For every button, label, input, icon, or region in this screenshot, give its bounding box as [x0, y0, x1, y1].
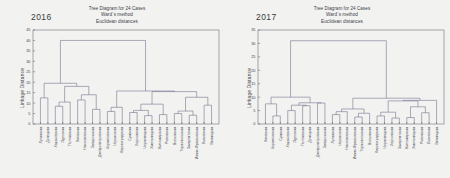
svg-text:30: 30 — [26, 59, 31, 64]
svg-text:Винницкая: Винницкая — [435, 127, 439, 145]
svg-text:45: 45 — [26, 27, 30, 32]
leaf-label: Житомирская — [158, 127, 162, 149]
svg-text:Харьковская: Харьковская — [54, 127, 58, 148]
panel-2016: 2016 Tree Diagram for 24 Cases Ward`s me… — [0, 0, 225, 178]
svg-text:Донецкая: Донецкая — [308, 127, 312, 143]
svg-text:Полтавская: Полтавская — [68, 127, 72, 146]
svg-text:0: 0 — [253, 121, 256, 126]
svg-text:Львовская: Львовская — [202, 127, 206, 144]
svg-text:25: 25 — [251, 54, 255, 59]
leaf-label: Донецкая — [308, 127, 312, 143]
svg-text:Черкасская: Черкасская — [113, 127, 117, 146]
svg-text:Днепропетровская: Днепропетровская — [98, 127, 102, 157]
svg-text:Волынская: Волынская — [173, 127, 177, 145]
svg-text:Черновицкая: Черновицкая — [383, 127, 387, 148]
svg-text:25: 25 — [26, 69, 30, 74]
leaf-label: Херсонская — [135, 127, 139, 146]
panel-2017: 2017 Tree Diagram for 24 Cases Ward`s me… — [225, 0, 450, 178]
leaf-label: Волынская — [368, 127, 372, 145]
svg-text:Полтавская: Полтавская — [301, 127, 305, 146]
svg-text:Запорожская: Запорожская — [323, 127, 327, 148]
svg-text:Киевская: Киевская — [264, 127, 268, 142]
svg-text:20: 20 — [251, 68, 256, 73]
svg-text:Донецкая: Донецкая — [46, 127, 50, 143]
svg-text:Запорожская: Запорожская — [91, 127, 95, 148]
svg-text:Житомирская: Житомирская — [405, 127, 409, 149]
dendrogram-svg-2016: 051015202530354045ЛуганскаяДонецкаяХарьк… — [0, 0, 225, 178]
svg-text:Черниговская: Черниговская — [106, 127, 110, 149]
svg-text:Харьковская: Харьковская — [286, 127, 290, 148]
leaf-label: Николаевская — [83, 127, 87, 150]
leaf-label: Одесская — [293, 127, 297, 143]
svg-text:Тернопольская: Тернопольская — [180, 127, 184, 152]
leaf-label: Ровенская — [165, 127, 169, 144]
leaf-label: Ровенская — [420, 127, 424, 144]
svg-text:Сумская: Сумская — [279, 127, 283, 141]
svg-text:Ровенская: Ровенская — [165, 127, 169, 144]
svg-text:Черниговская: Черниговская — [271, 127, 275, 149]
leaf-label: Днепропетровская — [98, 127, 102, 157]
svg-text:Сумская: Сумская — [128, 127, 132, 141]
svg-text:Хмельницкая: Хмельницкая — [412, 127, 416, 149]
leaf-label: Харьковская — [286, 127, 290, 148]
leaf-label: Хмельницкая — [150, 127, 154, 149]
svg-text:Житомирская: Житомирская — [158, 127, 162, 149]
leaf-label: Закарпатская — [187, 127, 191, 149]
svg-text:Кировоградская: Кировоградская — [120, 127, 124, 153]
leaf-label: Винницкая — [435, 127, 439, 145]
leaf-label: Запорожская — [323, 127, 327, 148]
leaf-label: Киевская — [264, 127, 268, 142]
svg-text:15: 15 — [26, 90, 30, 95]
svg-text:10: 10 — [251, 95, 256, 100]
svg-text:Николаевская: Николаевская — [83, 127, 87, 150]
svg-text:Волынская: Волынская — [368, 127, 372, 145]
leaf-label: Ивано-Франковская — [195, 127, 199, 159]
leaf-label: Полтавская — [301, 127, 305, 146]
svg-text:Черновицкая: Черновицкая — [143, 127, 147, 148]
svg-text:Херсонская: Херсонская — [135, 127, 139, 146]
svg-text:Винницкая: Винницкая — [210, 127, 214, 145]
svg-text:10: 10 — [26, 101, 31, 106]
svg-text:35: 35 — [251, 27, 255, 32]
leaf-label: Тернопольская — [360, 127, 364, 152]
svg-text:Закарпатская: Закарпатская — [187, 127, 191, 149]
leaf-label: Волынская — [173, 127, 177, 145]
svg-text:Ивано-Франковская: Ивано-Франковская — [353, 127, 357, 159]
leaf-label: Тернопольская — [180, 127, 184, 152]
svg-text:Одесская: Одесская — [61, 127, 65, 143]
leaf-label: Львовская — [202, 127, 206, 144]
svg-text:0: 0 — [28, 121, 31, 126]
leaf-label: Черниговская — [271, 127, 275, 149]
leaf-label: Донецкая — [46, 127, 50, 143]
svg-text:Николаевская: Николаевская — [345, 127, 349, 150]
leaf-label: Запорожская — [91, 127, 95, 148]
leaf-label: Полтавская — [68, 127, 72, 146]
leaf-label: Черниговская — [106, 127, 110, 149]
leaf-label: Днепропетровская — [316, 127, 320, 157]
leaf-label: Ивано-Франковская — [353, 127, 357, 159]
leaf-label: Сумская — [128, 127, 132, 141]
svg-text:Киевская: Киевская — [76, 127, 80, 142]
leaf-label: Закарпатская — [398, 127, 402, 149]
svg-text:Одесская: Одесская — [293, 127, 297, 143]
svg-text:Ивано-Франковская: Ивано-Франковская — [195, 127, 199, 159]
leaf-label: Кировоградская — [375, 127, 379, 153]
leaf-label: Черкасская — [113, 127, 117, 146]
svg-text:20: 20 — [26, 80, 31, 85]
svg-text:Хмельницкая: Хмельницкая — [150, 127, 154, 149]
svg-text:Херсонская: Херсонская — [390, 127, 394, 146]
svg-text:Луганская: Луганская — [39, 127, 43, 143]
leaf-label: Черновицкая — [383, 127, 387, 148]
dendrogram-svg-2017: 05101520253035КиевскаяЧерниговскаяСумска… — [225, 0, 450, 178]
svg-text:Черкасская: Черкасская — [338, 127, 342, 146]
svg-text:Днепропетровская: Днепропетровская — [316, 127, 320, 157]
svg-text:Закарпатская: Закарпатская — [398, 127, 402, 149]
leaf-label: Винницкая — [210, 127, 214, 145]
leaf-label: Черновицкая — [143, 127, 147, 148]
leaf-label: Кировоградская — [120, 127, 124, 153]
leaf-label: Херсонская — [390, 127, 394, 146]
svg-text:Львовская: Львовская — [427, 127, 431, 144]
svg-text:5: 5 — [28, 111, 30, 116]
leaf-label: Хмельницкая — [412, 127, 416, 149]
leaf-label: Житомирская — [405, 127, 409, 149]
